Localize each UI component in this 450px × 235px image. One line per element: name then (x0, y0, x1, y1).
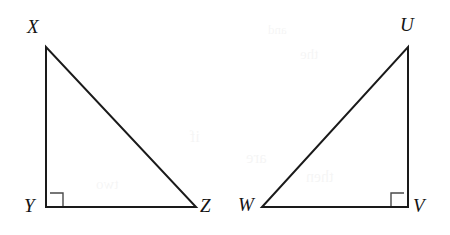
figure-canvas (0, 0, 450, 235)
vertex-label-z: Z (200, 196, 211, 215)
right-angle-icon-v (391, 193, 404, 206)
geometry-figure: and the if are then two X Y Z U V W (0, 0, 450, 235)
triangle-uvw-outline (262, 47, 408, 207)
vertex-label-u: U (400, 15, 414, 34)
right-angle-icon-y (50, 193, 63, 206)
vertex-label-y: Y (24, 196, 35, 215)
vertex-label-w: W (238, 195, 254, 214)
triangle-xyz (46, 47, 196, 207)
vertex-label-v: V (413, 196, 425, 215)
triangle-uvw (262, 47, 408, 207)
triangle-xyz-outline (46, 47, 196, 207)
vertex-label-x: X (27, 17, 39, 36)
